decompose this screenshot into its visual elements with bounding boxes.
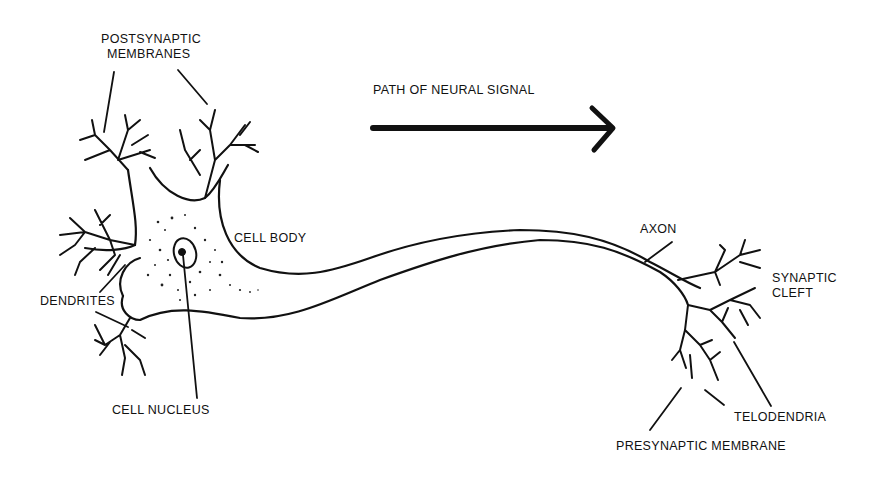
label-synaptic-cleft: SYNAPTIC CLEFT: [772, 271, 837, 301]
label-cell-nucleus: CELL NUCLEUS: [112, 403, 210, 418]
telodendria: [672, 240, 760, 380]
label-postsynaptic-membranes: POSTSYNAPTIC MEMBRANES: [101, 32, 201, 62]
cell-body-outline: [85, 165, 700, 320]
label-synaptic-line1: SYNAPTIC: [772, 271, 837, 286]
nucleus-icon: [170, 236, 199, 271]
dendrites-upper-left: [80, 115, 155, 170]
leader-lines: [96, 70, 771, 430]
label-postsynaptic-line1: POSTSYNAPTIC: [101, 32, 201, 47]
label-axon: AXON: [640, 222, 677, 237]
label-telodendria: TELODENDRIA: [734, 410, 826, 425]
label-synaptic-line2: CLEFT: [772, 286, 837, 301]
signal-arrow-icon: [373, 108, 613, 150]
label-cell-body: CELL BODY: [234, 231, 306, 246]
signal-title: PATH OF NEURAL SIGNAL: [373, 83, 535, 98]
label-dendrites: DENDRITES: [40, 294, 115, 309]
label-presynaptic-membrane: PRESYNAPTIC MEMBRANE: [616, 439, 786, 454]
dendrites-lower-left: [95, 318, 145, 375]
label-postsynaptic-line2: MEMBRANES: [101, 47, 201, 62]
